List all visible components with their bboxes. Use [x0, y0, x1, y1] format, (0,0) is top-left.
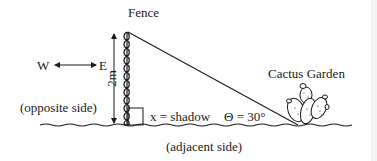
cactus-garden-label: Cactus Garden	[268, 67, 345, 80]
shadow-label: x = shadow	[150, 110, 210, 123]
height-label: 2m	[105, 70, 118, 87]
cactus-icon	[284, 84, 330, 126]
ground-line	[40, 124, 352, 126]
right-angle-marker	[128, 108, 143, 125]
opposite-side-label: (opposite side)	[20, 101, 97, 114]
angle-label: Θ = 30°	[224, 110, 265, 123]
west-label: W	[37, 59, 49, 72]
adjacent-side-label: (adjacent side)	[166, 140, 242, 153]
fence-label: Fence	[128, 6, 159, 19]
